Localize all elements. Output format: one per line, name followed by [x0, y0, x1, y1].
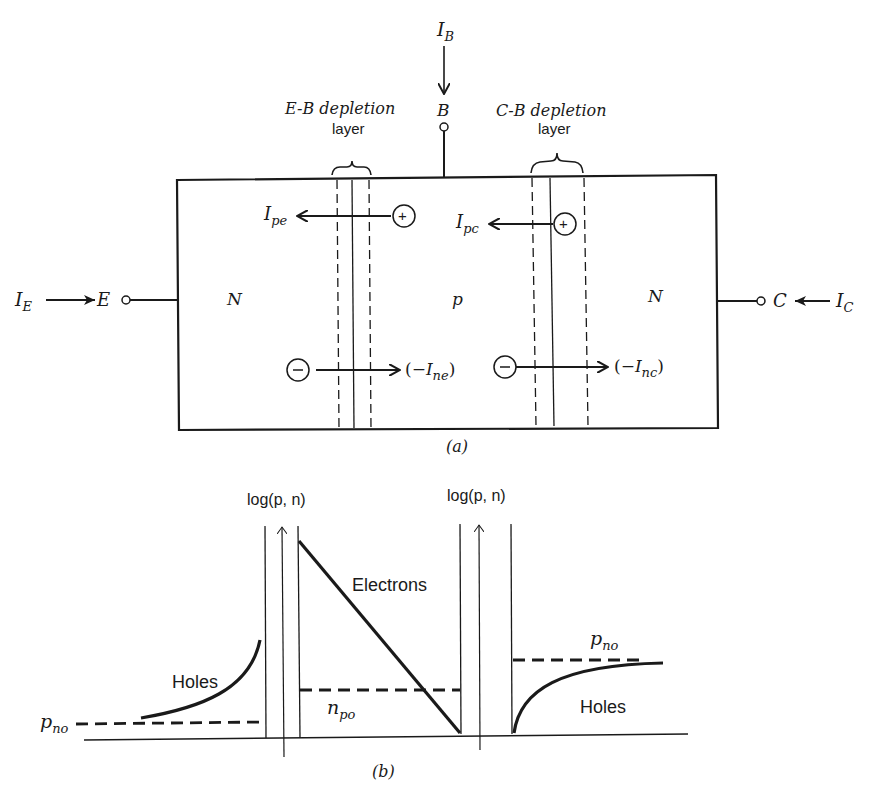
- collector-node-icon: [757, 297, 765, 305]
- transistor-body: [177, 175, 718, 430]
- eb-boundary-right: [369, 180, 371, 428]
- emitter-terminal: IE E: [14, 288, 178, 314]
- region-collector-n: N: [647, 286, 664, 306]
- pno-label-left: pno: [40, 710, 69, 736]
- eb-boundary-right-b: [298, 526, 300, 738]
- ipe-current: + Ipe: [263, 203, 415, 228]
- baseline: [84, 734, 688, 740]
- holes-label-right: Holes: [580, 697, 626, 717]
- bjt-diagram: IB B IE E C IC N p N E-B d: [0, 0, 876, 790]
- cb-boundary-right-b: [511, 524, 512, 734]
- pno-level-left: [76, 722, 265, 724]
- cb-brace: [531, 153, 583, 173]
- cb-depletion-layer: C-B depletion layer: [496, 101, 607, 426]
- base-label: B: [436, 100, 450, 120]
- region-emitter-n: N: [226, 289, 243, 309]
- inc-current: (−Inc): [494, 356, 664, 380]
- ipe-label: Ipe: [263, 203, 287, 228]
- cb-boundary-left-b: [460, 524, 461, 734]
- electrons-label: Electrons: [352, 575, 427, 595]
- emitter-label: E: [96, 289, 110, 310]
- ipc-label: Ipc: [455, 211, 479, 236]
- region-base-p: p: [452, 289, 463, 309]
- eb-boundary-left-b: [265, 526, 266, 738]
- log-axis-left: [282, 527, 284, 757]
- ipc-current: + Ipc: [455, 211, 576, 236]
- figure-b: log(p, n) log(p, n) Holes pno Electrons …: [40, 487, 688, 781]
- base-node-icon: [440, 123, 448, 131]
- log-axis-right: [479, 525, 480, 750]
- cb-boundary-right: [584, 178, 588, 426]
- caption-b: (b): [372, 762, 395, 781]
- eb-depletion-label: E-B depletion: [284, 99, 395, 118]
- eb-brace: [332, 161, 371, 175]
- ine-label: (−Ine): [405, 359, 455, 383]
- cb-boundary-left: [532, 178, 536, 426]
- inc-label: (−Inc): [614, 356, 664, 380]
- eb-boundary-left: [337, 180, 339, 428]
- caption-a: (a): [446, 437, 468, 456]
- emitter-node-icon: [122, 296, 130, 304]
- collector-label: C: [773, 290, 787, 311]
- npo-label: npo: [327, 696, 356, 722]
- base-terminal: IB B: [436, 18, 454, 178]
- holes-label-left: Holes: [172, 672, 218, 692]
- axis-label-right: log(p, n): [447, 487, 506, 504]
- cb-junction: [550, 178, 554, 426]
- ic-label: IC: [835, 289, 854, 315]
- cb-depletion-label: C-B depletion: [496, 101, 607, 120]
- electrons-line: [299, 541, 460, 733]
- ib-label: IB: [436, 18, 454, 44]
- eb-depletion-label-2: layer: [332, 120, 365, 137]
- eb-depletion-layer: E-B depletion layer: [284, 99, 395, 428]
- plus-sign: +: [398, 207, 407, 224]
- pno-label-right: pno: [590, 627, 619, 653]
- plus-sign: +: [559, 215, 568, 232]
- cb-depletion-label-2: layer: [538, 120, 571, 137]
- figure-a: IB B IE E C IC N p N E-B d: [14, 18, 854, 456]
- axis-label-left: log(p, n): [247, 491, 306, 508]
- ie-label: IE: [14, 288, 33, 314]
- collector-terminal: C IC: [718, 289, 854, 315]
- eb-junction: [352, 180, 354, 428]
